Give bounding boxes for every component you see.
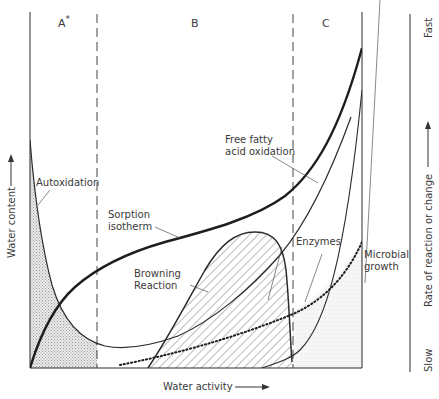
food-stability-map-diagram: A* B C Autoxidation Sorption isotherm Fr…	[0, 0, 439, 399]
sorption-isotherm-label-1: Sorption	[108, 209, 150, 220]
x-axis-label: Water activity	[163, 381, 270, 392]
autoxidation-region	[30, 140, 97, 368]
microbial-leader	[365, 0, 380, 283]
microbial-growth-region	[293, 240, 362, 368]
y-right-axis-label: Rate of reaction or change	[423, 121, 434, 307]
ffa-oxidation-label-2: acid oxidation	[225, 146, 295, 157]
svg-text:Rate of reaction or change: Rate of reaction or change	[423, 174, 434, 307]
browning-reaction-label-2: Reaction	[134, 280, 177, 291]
leader-lines	[38, 0, 380, 302]
ffa-oxidation-label-1: Free fatty	[225, 134, 273, 145]
sorption-isotherm-label-2: isotherm	[108, 221, 152, 232]
microbial-growth-label-2: growth	[364, 261, 399, 272]
zone-label-c: C	[322, 17, 330, 30]
sorption-leader	[155, 227, 180, 238]
browning-reaction-label-1: Browning	[134, 268, 181, 279]
svg-text:Water activity: Water activity	[163, 381, 233, 392]
microbial-growth-label-1: Microbial	[364, 249, 409, 260]
zone-label-b: B	[191, 17, 199, 30]
rate-slow-label: Slow	[423, 349, 434, 372]
rate-fast-label: Fast	[423, 18, 434, 38]
svg-text:Water content: Water content	[6, 187, 17, 258]
zone-label-a: A*	[58, 14, 71, 30]
autoxidation-label: Autoxidation	[36, 177, 99, 188]
y-left-axis-label: Water content	[6, 154, 17, 258]
enzymes-label: Enzymes	[296, 236, 341, 247]
browning-reaction-region	[148, 232, 292, 368]
autoxidation-leader	[38, 190, 50, 205]
